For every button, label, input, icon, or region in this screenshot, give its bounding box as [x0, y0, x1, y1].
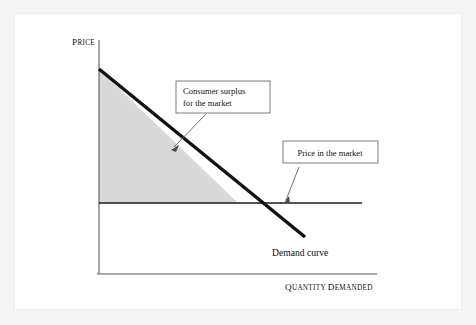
- y-axis-label: PRICE: [72, 37, 95, 47]
- x-axis-label-rest-2: EMANDED: [335, 284, 373, 292]
- consumer-surplus-chart: PRICE QUANTITY DEMANDED Consumer surplus…: [0, 0, 476, 325]
- price-leader-line: [286, 167, 299, 200]
- demand-curve-label: Demand curve: [272, 247, 328, 258]
- y-axis-label-rest: RICE: [77, 39, 95, 47]
- consumer-surplus-callout-line2: for the market: [183, 98, 232, 108]
- consumer-surplus-callout-line1: Consumer surplus: [183, 86, 246, 96]
- figure-root: PRICE QUANTITY DEMANDED Consumer surplus…: [0, 0, 476, 325]
- market-price-callout-label: Price in the market: [297, 148, 363, 158]
- x-axis-label: QUANTITY DEMANDED: [285, 282, 373, 292]
- x-axis-label-rest-1: UANTITY: [292, 284, 327, 292]
